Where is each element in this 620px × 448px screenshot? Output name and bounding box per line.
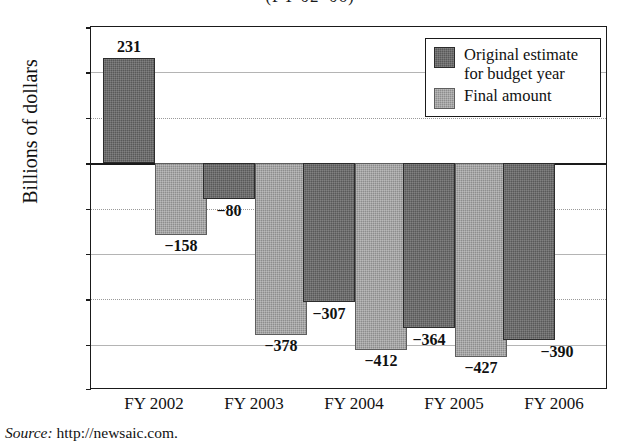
bar-fy2004-final [355,163,407,350]
bar-fy2004-original [303,163,355,302]
xtick-label-fy2004: FY 2004 [324,394,383,414]
legend-item-original-estimate: Original estimate for budget year [434,45,592,83]
source-url: http://newsaic.com. [57,424,178,441]
value-label-fy2002-final: −158 [164,237,197,255]
value-label-fy2003-original: −80 [216,202,241,220]
ytick-mark-neg100 [86,209,91,211]
ytick-mark-300 [86,27,91,29]
value-label-fy2004-final: −412 [364,352,397,370]
legend-item-final-amount: Final amount [434,86,592,109]
chart-title: (FY 02–06) [0,0,620,7]
value-label-fy2005-final: −427 [464,359,497,377]
legend-label-original-estimate-line1: Original estimate [464,45,578,64]
bar-fy2002-final [155,163,207,235]
value-label-fy2003-final: −378 [264,337,297,355]
value-label-fy2005-original: −364 [412,331,445,349]
xtick-label-fy2003: FY 2003 [224,394,283,414]
bar-fy2003-final [255,163,307,335]
ytick-mark-neg200 [86,254,91,256]
legend-label-original-estimate-line2: for budget year [464,64,578,83]
bar-fy2006-original [503,163,555,340]
xtick-label-fy2002: FY 2002 [124,394,183,414]
bar-fy2003-original [203,163,255,199]
bar-fy2005-original [403,163,455,328]
legend-swatch-final-amount [434,88,455,109]
legend-swatch-original-estimate [434,47,455,68]
bar-fy2002-original [103,58,155,163]
gridline-neg400 [91,345,606,346]
xtick-label-fy2006: FY 2006 [524,394,583,414]
gridline-100 [91,118,606,119]
xtick-label-fy2005: FY 2005 [424,394,483,414]
source-note: Source: http://newsaic.com. [5,424,178,442]
chart-legend: Original estimate for budget year Final … [425,38,601,117]
y-axis-title: Billions of dollars [19,22,42,242]
ytick-mark-neg500 [86,389,91,391]
value-label-fy2006-original: −390 [540,343,573,361]
bar-fy2005-final [455,163,507,357]
value-label-fy2004-original: −307 [312,305,345,323]
legend-label-final-amount: Final amount [464,86,552,105]
ytick-mark-neg400 [86,345,91,347]
source-label: Source: [5,424,53,441]
legend-label-final-amount-line1: Final amount [464,86,552,105]
ytick-mark-200 [86,72,91,74]
legend-label-original-estimate: Original estimate for budget year [464,45,578,83]
ytick-mark-neg300 [86,299,91,301]
ytick-mark-100 [86,118,91,120]
value-label-fy2002-original: 231 [117,38,141,56]
